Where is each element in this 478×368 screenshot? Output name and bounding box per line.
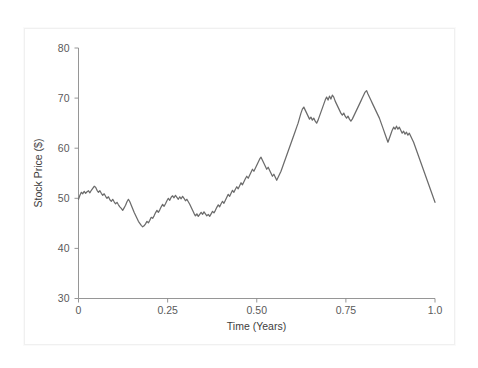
y-axis-ticks: 304050607080 <box>58 42 79 305</box>
y-tick-label: 60 <box>58 142 70 154</box>
x-tick-label: 0.75 <box>336 304 357 316</box>
y-axis-title: Stock Price ($) <box>32 139 44 208</box>
y-tick-label: 50 <box>58 192 70 204</box>
x-tick-label: 0 <box>76 304 82 316</box>
x-axis-title: Time (Years) <box>227 320 286 332</box>
y-tick-label: 40 <box>58 242 70 254</box>
x-tick-label: 1.0 <box>428 304 443 316</box>
stock-price-series-line <box>79 91 436 227</box>
stock-price-line-chart: 304050607080 00.250.500.751.0 Time (Year… <box>0 0 478 368</box>
y-tick-label: 30 <box>58 292 70 304</box>
y-tick-label: 70 <box>58 92 70 104</box>
figure-root: 304050607080 00.250.500.751.0 Time (Year… <box>0 0 478 368</box>
x-tick-label: 0.50 <box>247 304 268 316</box>
y-tick-label: 80 <box>58 42 70 54</box>
x-tick-label: 0.25 <box>157 304 178 316</box>
x-axis-ticks: 00.250.500.751.0 <box>76 299 443 316</box>
